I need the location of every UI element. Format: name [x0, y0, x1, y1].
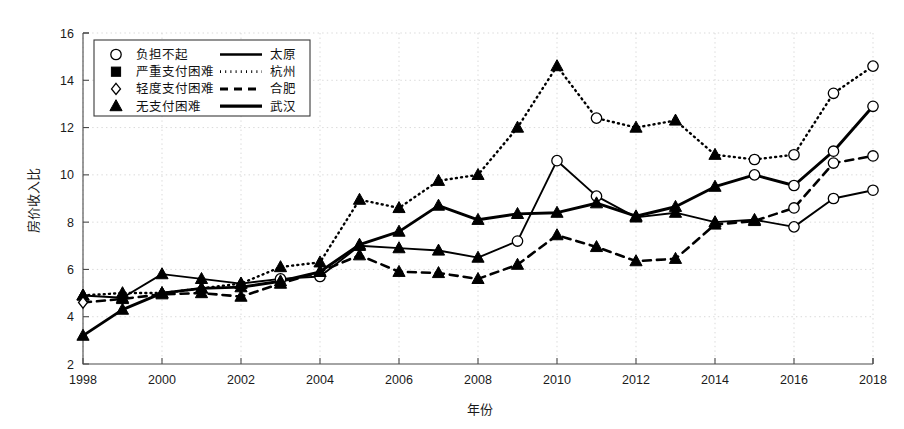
chart-legend: 负担不起严重支付困难轻度支付困难无支付困难太原杭州合肥武汉: [94, 40, 310, 116]
y-tick-label: 2: [67, 358, 74, 372]
x-tick-label: 2002: [227, 373, 255, 387]
x-axis-title: 年份: [467, 402, 493, 417]
合肥-circle-open-marker: [789, 203, 799, 213]
武汉-circle-open-marker: [868, 101, 878, 111]
legend-marker-label-3: 无支付困难: [136, 99, 201, 114]
杭州-circle-open-marker: [828, 88, 838, 98]
武汉-circle-open-marker: [749, 170, 759, 180]
x-tick-label: 2014: [701, 373, 729, 387]
legend-circle-open-marker: [111, 49, 121, 59]
legend-marker-label-0: 负担不起: [136, 47, 188, 62]
x-tick-label: 2006: [385, 373, 413, 387]
legend-marker-label-2: 轻度支付困难: [136, 81, 214, 96]
x-tick-label: 2012: [622, 373, 650, 387]
y-tick-label: 10: [60, 168, 74, 182]
x-tick-label: 2000: [148, 373, 176, 387]
合肥-circle-open-marker: [868, 151, 878, 161]
legend-series-label-0: 太原: [270, 47, 296, 62]
y-tick-label: 6: [67, 263, 74, 277]
太原-circle-open-marker: [868, 185, 878, 195]
legend-series-label-3: 武汉: [270, 99, 296, 114]
太原-circle-open-marker: [789, 222, 799, 232]
杭州-circle-open-marker: [749, 154, 759, 164]
x-tick-label: 2018: [859, 373, 887, 387]
武汉-circle-open-marker: [789, 180, 799, 190]
太原-circle-open-marker: [512, 236, 522, 246]
x-tick-label: 1998: [69, 373, 97, 387]
武汉-circle-open-marker: [828, 146, 838, 156]
legend-series-label-2: 合肥: [270, 81, 296, 96]
y-tick-label: 14: [60, 74, 74, 88]
chart-figure: 1998200020022004200620082010201220142016…: [0, 0, 904, 429]
x-tick-label: 2010: [543, 373, 571, 387]
合肥-circle-open-marker: [828, 158, 838, 168]
x-tick-label: 2008: [464, 373, 492, 387]
太原-circle-open-marker: [828, 193, 838, 203]
杭州-circle-open-marker: [868, 61, 878, 71]
y-tick-label: 4: [67, 310, 74, 324]
legend-square-filled-marker: [111, 67, 120, 76]
y-axis-title: 房价收入比: [26, 168, 41, 233]
杭州-circle-open-marker: [789, 150, 799, 160]
y-tick-label: 8: [67, 216, 74, 230]
太原-circle-open-marker: [552, 155, 562, 165]
杭州-circle-open-marker: [591, 113, 601, 123]
house-price-income-ratio-line-chart: 1998200020022004200620082010201220142016…: [0, 0, 904, 429]
legend-marker-label-1: 严重支付困难: [136, 64, 214, 79]
y-tick-label: 12: [60, 121, 74, 135]
x-tick-label: 2004: [306, 373, 334, 387]
x-tick-label: 2016: [780, 373, 808, 387]
legend-series-label-1: 杭州: [270, 64, 296, 79]
y-tick-label: 16: [60, 27, 74, 41]
